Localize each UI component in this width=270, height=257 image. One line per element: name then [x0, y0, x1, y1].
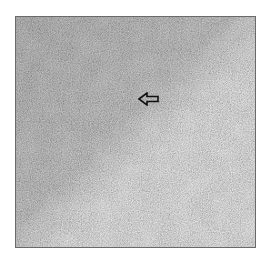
micrograph-image: [15, 16, 256, 248]
arrow-left-icon: [138, 92, 160, 106]
tissue-texture: [16, 17, 256, 248]
